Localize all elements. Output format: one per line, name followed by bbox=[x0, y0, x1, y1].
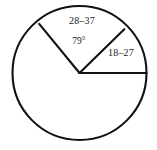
pie-slice-label-18-27: 18–27 bbox=[108, 48, 134, 58]
pie-angle-label-79: 79° bbox=[72, 37, 85, 47]
pie-chart-figure: 28–37 79° 18–27 bbox=[0, 0, 157, 150]
pie-slice-label-28-37: 28–37 bbox=[69, 16, 95, 26]
